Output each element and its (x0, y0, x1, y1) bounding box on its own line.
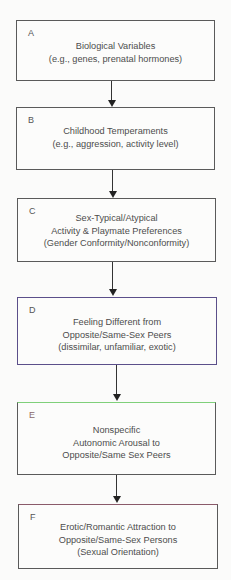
arrowhead-icon (109, 289, 117, 296)
box-c-line-3: (Gender Conformity/Nonconformity) (18, 237, 215, 250)
box-c-line-2: Activity & Playmate Preferences (18, 225, 215, 238)
box-a-title: Biological Variables (17, 40, 214, 53)
box-b: B Childhood Temperaments (e.g., aggressi… (16, 107, 215, 170)
box-c-line-1: Sex-Typical/Atypical (18, 212, 215, 225)
box-d-line-2: Opposite/Same-Sex Peers (18, 329, 216, 342)
box-c: C Sex-Typical/Atypical Activity & Playma… (17, 198, 216, 262)
arrowhead-icon (113, 394, 121, 401)
box-f-line-1: Erotic/Romantic Attraction to (19, 521, 217, 534)
box-e-letter: E (29, 410, 35, 420)
box-e-line-2: Autonomic Arousal to (18, 437, 215, 450)
box-e: E Nonspecific Autonomic Arousal to Oppos… (17, 402, 216, 475)
box-d: D Feeling Different from Opposite/Same-S… (17, 297, 217, 365)
box-a-letter: A (28, 28, 34, 38)
box-d-line-1: Feeling Different from (18, 316, 216, 329)
box-b-subtitle: (e.g., aggression, activity level) (17, 138, 214, 151)
box-f: F Erotic/Romantic Attraction to Opposite… (18, 504, 218, 569)
arrowhead-icon (108, 100, 116, 107)
box-e-line-3: Opposite/Same Sex Peers (18, 449, 215, 462)
box-b-title: Childhood Temperaments (17, 125, 214, 138)
arrowhead-icon (109, 191, 117, 198)
arrowhead-icon (113, 496, 121, 503)
box-a: A Biological Variables (e.g., genes, pre… (16, 20, 215, 81)
box-f-line-2: Opposite/Same-Sex Persons (19, 534, 217, 547)
box-d-letter: D (29, 305, 36, 315)
box-d-line-3: (dissimilar, unfamiliar, exotic) (18, 341, 216, 354)
box-e-line-1: Nonspecific (18, 424, 215, 437)
box-a-subtitle: (e.g., genes, prenatal hormones) (17, 53, 214, 66)
box-f-line-3: (Sexual Orientation) (19, 546, 217, 559)
box-b-letter: B (28, 115, 34, 125)
